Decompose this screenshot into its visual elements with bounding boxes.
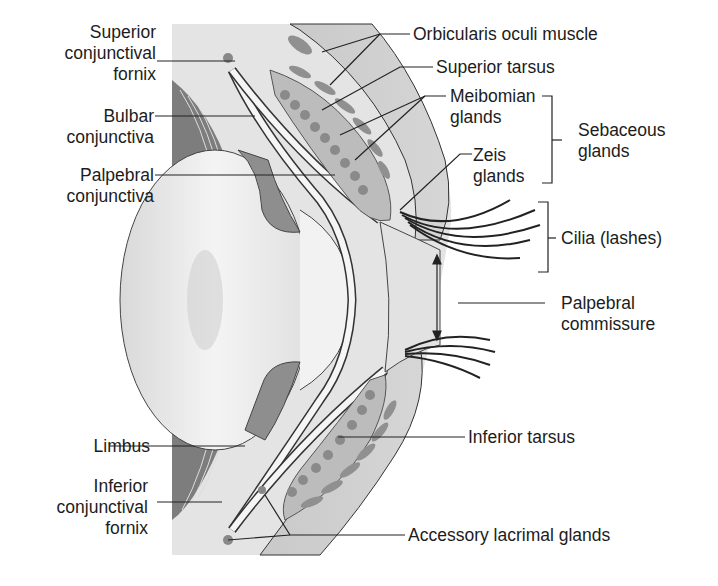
label-line: Cilia (lashes) — [561, 228, 662, 249]
label-line: glands — [473, 166, 525, 187]
label-line: Zeis — [473, 145, 525, 166]
label-line: Meibomian — [450, 86, 536, 107]
label-line: glands — [578, 141, 666, 162]
label-line: glands — [450, 107, 536, 128]
label-line: Palpebral — [40, 165, 154, 186]
label-line: fornix — [40, 64, 156, 85]
label-line: Limbus — [40, 436, 150, 457]
label-palpebral-conjunctiva: Palpebral conjunctiva — [40, 165, 154, 207]
label-zeis-glands: Zeis glands — [473, 145, 525, 187]
label-inferior-tarsus: Inferior tarsus — [468, 427, 575, 448]
label-inferior-conjunctival-fornix: Inferior conjunctival fornix — [30, 476, 148, 539]
label-line: Superior — [40, 22, 156, 43]
label-superior-conjunctival-fornix: Superior conjunctival fornix — [40, 22, 156, 85]
label-line: Orbicularis oculi muscle — [413, 24, 598, 45]
label-line: Inferior tarsus — [468, 427, 575, 448]
label-superior-tarsus: Superior tarsus — [436, 57, 555, 78]
label-sebaceous-glands: Sebaceous glands — [578, 120, 666, 162]
label-bulbar-conjunctiva: Bulbar conjunctiva — [40, 106, 154, 148]
label-line: conjunctiva — [40, 186, 154, 207]
label-line: conjunctival — [40, 43, 156, 64]
label-line: conjunctival — [30, 497, 148, 518]
label-meibomian-glands: Meibomian glands — [450, 86, 536, 128]
label-line: Accessory lacrimal glands — [408, 525, 610, 546]
label-cilia-lashes: Cilia (lashes) — [561, 228, 662, 249]
label-line: Inferior — [30, 476, 148, 497]
label-palpebral-commissure: Palpebral commissure — [561, 293, 655, 335]
label-line: commissure — [561, 314, 655, 335]
label-line: conjunctiva — [40, 127, 154, 148]
label-line: Palpebral — [561, 293, 655, 314]
label-line: Sebaceous — [578, 120, 666, 141]
label-orbicularis-oculi-muscle: Orbicularis oculi muscle — [413, 24, 598, 45]
label-accessory-lacrimal-glands: Accessory lacrimal glands — [408, 525, 610, 546]
label-line: Bulbar — [40, 106, 154, 127]
label-line: fornix — [30, 518, 148, 539]
label-limbus: Limbus — [40, 436, 150, 457]
label-line: Superior tarsus — [436, 57, 555, 78]
eyelid-anatomy-diagram: Superior conjunctival fornix Bulbar conj… — [0, 0, 718, 586]
